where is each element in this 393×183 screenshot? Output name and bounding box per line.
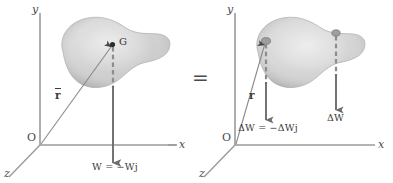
left-z-axis <box>9 145 40 177</box>
right-x-axis-label: x <box>378 139 384 150</box>
right-origin-label: O <box>222 132 231 143</box>
weight-equivalence-figure: y x z O G r W = −Wj = y x z O r ΔW = −ΔW… <box>0 0 393 183</box>
right-z-axis <box>204 145 235 177</box>
total-weight-label: W = −Wj <box>92 162 138 172</box>
left-z-axis-label: z <box>4 168 10 179</box>
left-origin-label: O <box>27 132 36 143</box>
right-y-axis-label: y <box>227 4 233 15</box>
center-of-gravity-label: G <box>119 37 127 47</box>
left-x-axis-label: x <box>179 139 185 150</box>
left-position-vector-label: r <box>55 90 61 101</box>
center-of-gravity-point <box>110 42 115 47</box>
right-position-vector-label: r <box>249 90 255 101</box>
left-position-vector-text: r <box>55 90 61 101</box>
left-rigid-body <box>62 17 170 87</box>
mass-element-marker-1 <box>261 38 270 45</box>
right-z-axis-label: z <box>199 168 205 179</box>
right-rigid-body <box>257 17 365 87</box>
second-element-weight-label: ΔW <box>327 113 344 123</box>
mass-element-marker-2 <box>332 30 340 36</box>
left-y-axis-label: y <box>32 4 38 15</box>
element-weight-label: ΔW = −ΔWj <box>238 123 298 133</box>
equals-sign: = <box>192 68 209 88</box>
